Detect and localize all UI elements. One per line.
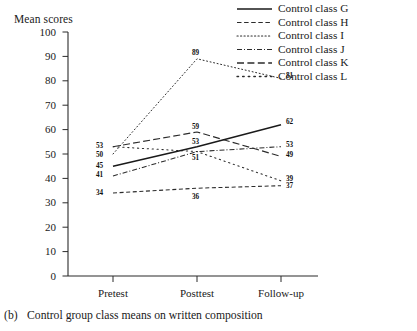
data-label-j-pretest: 41 — [96, 172, 103, 179]
x-tick-label-follow-up: Follow-up — [251, 288, 311, 299]
y-tick-label: 90 — [30, 51, 56, 62]
figure-control-group-means: Mean scores — [0, 0, 417, 331]
data-label-k-followup: 49 — [286, 152, 293, 159]
data-label-h-posttest: 36 — [192, 194, 199, 201]
y-tick-label: 80 — [30, 75, 56, 86]
legend-label-control-class-g: Control class G — [278, 3, 348, 14]
legend-label-control-class-l: Control class L — [278, 71, 347, 82]
x-tick-label-pretest: Pretest — [85, 288, 141, 299]
legend-label-control-class-j: Control class J — [278, 44, 345, 55]
data-label-j-followup: 53 — [286, 142, 293, 149]
y-tick-label: 10 — [30, 246, 56, 257]
x-tick-label-posttest: Posttest — [169, 288, 225, 299]
data-label-g-pretest: 45 — [96, 163, 103, 170]
caption-marker: (b) — [4, 310, 18, 322]
chart-canvas — [0, 0, 417, 331]
data-label-i-posttest: 89 — [192, 50, 199, 57]
data-label-k-pretest: 53 — [96, 143, 103, 150]
y-tick-label: 30 — [30, 197, 56, 208]
legend-sample-lines — [237, 9, 272, 77]
data-label-k-posttest: 59 — [192, 124, 199, 131]
legend-label-control-class-k: Control class K — [278, 57, 348, 68]
data-label-h-followup: 37 — [286, 183, 293, 190]
data-label-h-pretest: 34 — [96, 190, 103, 197]
y-tick-label: 40 — [30, 173, 56, 184]
y-tick-label: 0 — [30, 271, 56, 282]
caption-text: Control group class means on written com… — [27, 310, 263, 322]
y-tick-label: 70 — [30, 100, 56, 111]
legend-label-control-class-h: Control class H — [278, 17, 348, 28]
y-tick-label: 100 — [30, 27, 56, 38]
data-label-g-followup: 62 — [286, 119, 293, 126]
data-label-g-posttest: 53 — [192, 139, 199, 146]
y-tick-label: 20 — [30, 222, 56, 233]
y-tick-label: 50 — [30, 149, 56, 160]
data-label-i-pretest: 50 — [96, 152, 103, 159]
legend-label-control-class-i: Control class I — [278, 30, 344, 41]
data-label-j-posttest: 51 — [192, 155, 199, 162]
series-line-control-class-h — [113, 186, 281, 193]
y-tick-label: 60 — [30, 124, 56, 135]
